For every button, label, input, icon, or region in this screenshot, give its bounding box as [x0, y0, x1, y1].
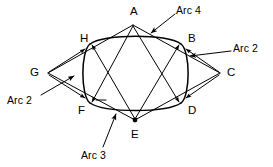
- ray-C-to-lower-right-arc: [186, 75, 219, 98]
- arc-label-arc-3: Arc 3: [81, 150, 106, 161]
- geometry-diagram-svg: [0, 0, 273, 167]
- point-label-D: D: [188, 105, 196, 117]
- construction-rays: [92, 26, 179, 119]
- ray-C-to-upper-right-arc: [186, 49, 219, 72]
- leader-arc-2-right: [190, 51, 231, 56]
- side-vertex-rays: [49, 49, 219, 98]
- ray-G-to-lower-left-arc: [49, 75, 85, 98]
- point-label-A: A: [130, 6, 138, 18]
- arc-bottom-large: [90, 103, 181, 111]
- diagram-canvas: A B C D E F G H Arc 4 Arc 2 Arc 2 Arc 3: [0, 0, 273, 167]
- point-label-H: H: [80, 33, 88, 45]
- leader-arc-3: [103, 114, 116, 147]
- arc-label-arc-2-right: Arc 2: [233, 43, 258, 54]
- point-label-B: B: [188, 33, 196, 45]
- arc-label-arc-2-left: Arc 2: [7, 95, 32, 106]
- point-dot-E: [133, 118, 138, 123]
- arc-top-large: [90, 36, 181, 44]
- ray-G-to-upper-left-arc: [49, 49, 85, 72]
- point-label-G: G: [30, 67, 39, 79]
- point-label-E: E: [131, 129, 139, 141]
- arc-label-arc-4: Arc 4: [176, 5, 201, 16]
- point-label-C: C: [227, 67, 235, 79]
- rhombus-edge-C-E: [135, 73, 220, 120]
- leader-arc-4: [151, 14, 175, 33]
- leader-arc-2-left: [41, 76, 74, 95]
- point-label-F: F: [78, 105, 85, 117]
